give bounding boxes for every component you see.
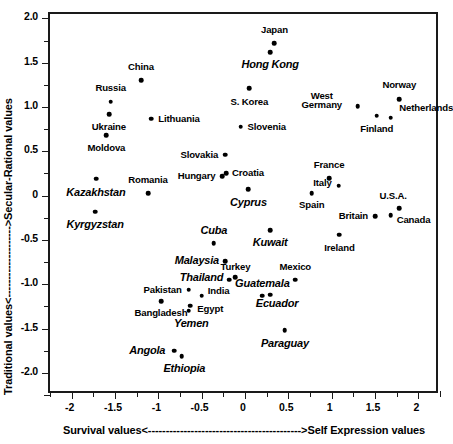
data-point (283, 328, 288, 333)
y-tick (42, 107, 50, 108)
point-label: Egypt (197, 304, 223, 314)
data-point (212, 241, 217, 246)
data-point (293, 278, 298, 283)
point-label: Italy (313, 178, 331, 188)
data-point (108, 99, 113, 104)
x-tick-label: 1 (327, 401, 333, 413)
data-point (337, 232, 342, 237)
y-tick (44, 351, 50, 352)
point-label: Bangladesh (134, 308, 187, 318)
x-tick (180, 391, 181, 397)
y-tick (44, 218, 50, 219)
data-point (139, 78, 144, 83)
x-tick (440, 391, 441, 397)
y-tick (44, 306, 50, 307)
data-point (388, 115, 393, 120)
y-tick (42, 151, 50, 152)
y-tick-label: 2.0 (10, 10, 38, 22)
y-tick (42, 284, 50, 285)
x-tick-label: -1 (152, 401, 161, 413)
x-tick (418, 391, 419, 399)
point-label: WestGermany (302, 91, 343, 110)
point-label: Ireland (324, 243, 354, 253)
data-point (388, 213, 393, 218)
y-tick (44, 41, 50, 42)
point-label: Slovakia (180, 150, 218, 160)
point-label: China (128, 62, 154, 72)
x-tick (245, 391, 246, 399)
point-label: Croatia (232, 169, 264, 179)
y-tick (42, 18, 50, 19)
data-point (93, 209, 98, 214)
point-label: U.S.A. (380, 191, 407, 201)
point-label: Cyprus (230, 197, 267, 208)
data-point (246, 187, 251, 192)
x-tick-label: 1.5 (366, 401, 381, 413)
y-tick (42, 329, 50, 330)
point-label: Mexico (279, 263, 311, 273)
plot-area: JapanHong KongChinaS. KoreaNorwayRussiaW… (48, 12, 438, 393)
data-point (220, 174, 225, 179)
x-tick-label: 0 (240, 401, 246, 413)
point-label: Moldova (87, 143, 125, 153)
y-tick (42, 63, 50, 64)
x-axis-title: Survival values<------------------------… (48, 424, 440, 436)
point-label: Kuwait (253, 238, 288, 249)
point-label: Turkey (221, 262, 251, 272)
point-label: Slovenia (248, 122, 286, 132)
point-label: Russia (95, 84, 126, 94)
point-label: Hong Kong (241, 60, 298, 71)
point-label: Paraguay (261, 338, 309, 349)
y-tick-label: 1.5 (10, 55, 38, 67)
point-label: Japan (261, 25, 288, 35)
data-point (146, 191, 151, 196)
point-label: Thailand (180, 272, 224, 283)
x-tick (93, 391, 94, 397)
data-point (179, 354, 184, 359)
data-point (107, 112, 112, 117)
data-point (397, 206, 402, 211)
data-point (373, 214, 378, 219)
y-tick-label: 1.0 (10, 99, 38, 111)
point-label: Britain (339, 211, 368, 221)
data-point (172, 348, 177, 353)
x-tick (332, 391, 333, 399)
data-point (268, 50, 273, 55)
y-tick-label: -2.0 (10, 365, 38, 377)
data-point (355, 104, 360, 109)
x-tick (397, 391, 398, 397)
x-tick (353, 391, 354, 397)
point-label: Kyrgyzstan (66, 219, 123, 230)
data-point (397, 97, 402, 102)
x-tick (267, 391, 268, 397)
x-tick-label: -1.5 (104, 401, 122, 413)
y-tick (44, 85, 50, 86)
point-label: Guatemala (235, 279, 289, 290)
point-label: Lithuania (158, 114, 199, 124)
point-label: Angola (129, 345, 165, 356)
y-tick-label: -0.5 (10, 232, 38, 244)
x-tick (72, 391, 73, 399)
data-point (238, 124, 243, 129)
x-tick (223, 391, 224, 397)
y-tick-label: -1.0 (10, 276, 38, 288)
data-point (272, 41, 277, 46)
data-point (159, 299, 164, 304)
y-tick (42, 373, 50, 374)
data-point (374, 114, 379, 119)
data-point (199, 293, 204, 298)
point-label: Hungary (178, 171, 216, 181)
x-tick (310, 391, 311, 397)
point-label: Kazakhstan (66, 187, 125, 198)
point-label: Yemen (174, 319, 209, 330)
data-point (149, 116, 154, 121)
x-tick (202, 391, 203, 399)
data-point (104, 133, 109, 138)
point-label: Spain (299, 200, 324, 210)
point-label: Norway (382, 80, 416, 90)
x-tick (137, 391, 138, 397)
x-tick (375, 391, 376, 399)
x-tick (158, 391, 159, 399)
y-tick (44, 173, 50, 174)
